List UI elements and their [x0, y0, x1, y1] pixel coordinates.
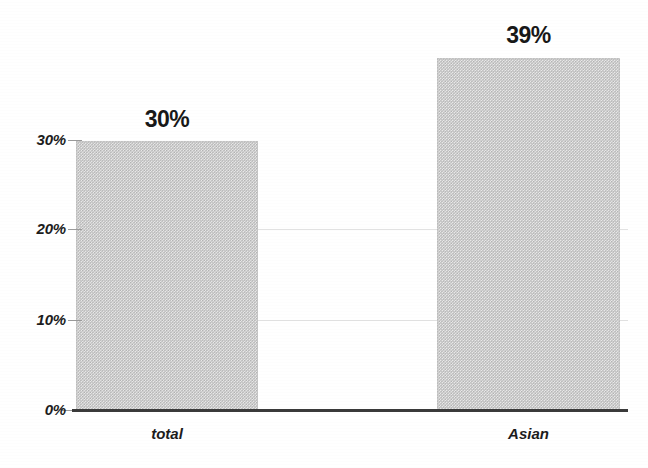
tick-mark-10pct	[68, 320, 82, 321]
bar-total	[76, 141, 258, 411]
tick-mark-20pct	[68, 229, 82, 230]
bar-asian	[437, 58, 620, 411]
x-axis-label-asian: Asian	[437, 425, 620, 442]
x-axis-line	[72, 409, 628, 412]
bar-value-asian: 39%	[437, 22, 620, 49]
bar-chart: 30% 20% 10% 0% 30% 39% total Asian	[0, 0, 648, 468]
y-axis-label-20pct: 20%	[14, 220, 66, 237]
y-axis-label-10pct: 10%	[14, 311, 66, 328]
tick-mark-30pct	[68, 140, 82, 141]
y-axis-label-0pct: 0%	[14, 401, 66, 418]
x-axis-label-total: total	[76, 425, 258, 442]
y-axis-label-30pct: 30%	[14, 131, 66, 148]
bar-value-total: 30%	[76, 106, 258, 133]
